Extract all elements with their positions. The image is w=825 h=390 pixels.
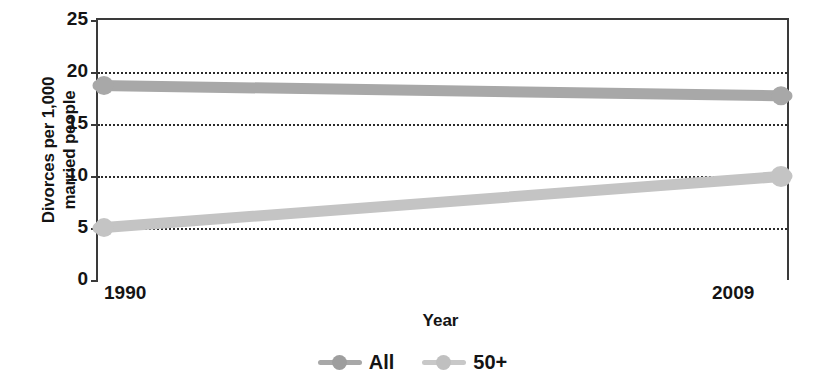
legend-item-50plus[interactable]: 50+ <box>422 352 507 372</box>
series-container <box>94 2 791 292</box>
y-axis-tick-labels: 0 5 10 15 20 25 <box>42 0 88 390</box>
legend-label-all: All <box>369 352 395 372</box>
series-50plus-point-1990 <box>95 218 114 237</box>
x-tick-label-1990: 1990 <box>104 283 146 302</box>
series-50plus <box>95 166 792 237</box>
plot-area <box>96 18 789 280</box>
legend-label-50plus: 50+ <box>473 352 507 372</box>
series-50plus-line <box>98 176 787 228</box>
y-tick-label-20: 20 <box>48 61 88 80</box>
legend-marker-all-icon <box>318 354 362 370</box>
chart-legend: All 50+ <box>0 352 825 372</box>
legend-item-all[interactable]: All <box>318 352 395 372</box>
y-tick-label-15: 15 <box>48 113 88 132</box>
x-tick-label-2009: 2009 <box>712 283 754 302</box>
y-tick-label-25: 25 <box>48 9 88 28</box>
y-tick-label-0: 0 <box>48 269 88 288</box>
series-all-line <box>98 86 787 96</box>
y-tick-label-5: 5 <box>48 217 88 236</box>
chart-figure: Divorces per 1,000 married people 0 5 10… <box>0 0 825 390</box>
series-all-point-1990 <box>95 76 114 95</box>
series-all-point-2009 <box>772 86 791 105</box>
series-50plus-point-2009 <box>771 166 792 187</box>
y-tick-label-10: 10 <box>48 165 88 184</box>
legend-marker-50plus-icon <box>422 354 466 370</box>
x-axis-title: Year <box>96 311 785 331</box>
series-all <box>95 76 791 105</box>
